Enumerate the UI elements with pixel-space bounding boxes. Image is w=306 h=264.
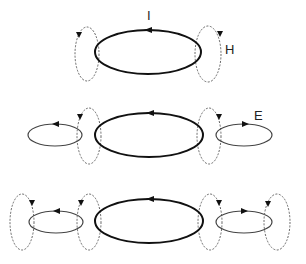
e-loop-left: [28, 124, 82, 146]
arrow-icon: [144, 27, 152, 33]
arrow-icon: [29, 200, 35, 206]
arrow-icon: [242, 121, 249, 127]
arrow-icon: [146, 196, 154, 202]
arrow-icon: [77, 114, 83, 120]
e-loop-right: [216, 211, 272, 233]
arrow-icon: [53, 208, 60, 214]
arrow-icon: [216, 114, 222, 120]
label-current: I: [147, 8, 151, 23]
arrow-icon: [76, 32, 82, 38]
row-1: I H: [75, 8, 234, 82]
arrow-icon: [216, 200, 222, 206]
arrow-icon: [217, 31, 223, 37]
e-loop-right: [216, 124, 272, 146]
label-magnetic: H: [225, 42, 234, 57]
e-loop-left: [29, 211, 83, 233]
arrow-icon: [78, 200, 84, 206]
current-loop: [95, 30, 201, 74]
h-loop-right: [195, 26, 221, 82]
current-loop: [95, 113, 203, 157]
current-loop: [95, 199, 203, 243]
field-loops-diagram: I H E: [0, 0, 306, 264]
arrow-icon: [52, 121, 59, 127]
arrow-icon: [241, 208, 248, 214]
row-3: [10, 194, 290, 250]
label-electric: E: [254, 108, 263, 123]
arrow-icon: [146, 110, 154, 116]
row-2: E: [28, 108, 272, 164]
